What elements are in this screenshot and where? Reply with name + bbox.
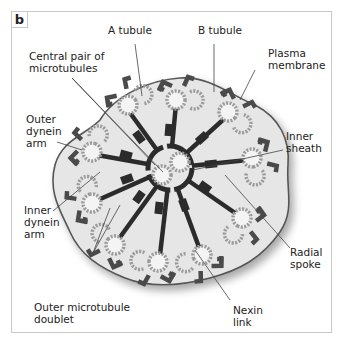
panel-label: b: [11, 11, 28, 28]
central-microtubule-2: [171, 153, 189, 171]
label-central-pair: Central pair of microtubules: [29, 50, 104, 74]
label-outer-microtubule-doublet: Outer microtubule doublet: [34, 301, 130, 325]
label-radial-spoke: Radial spoke: [290, 246, 322, 270]
label-plasma-membrane: Plasma membrane: [268, 47, 325, 71]
central-microtubule-1: [153, 166, 171, 184]
label-inner-sheath: Inner sheath: [286, 130, 322, 154]
label-inner-dynein-arm: Inner dynein arm: [24, 204, 60, 240]
label-nexin-link: Nexin link: [233, 304, 263, 328]
label-b-tubule: B tubule: [198, 24, 242, 36]
label-outer-dynein-arm: Outer dynein arm: [26, 113, 62, 149]
label-a-tubule: A tubule: [108, 24, 152, 36]
